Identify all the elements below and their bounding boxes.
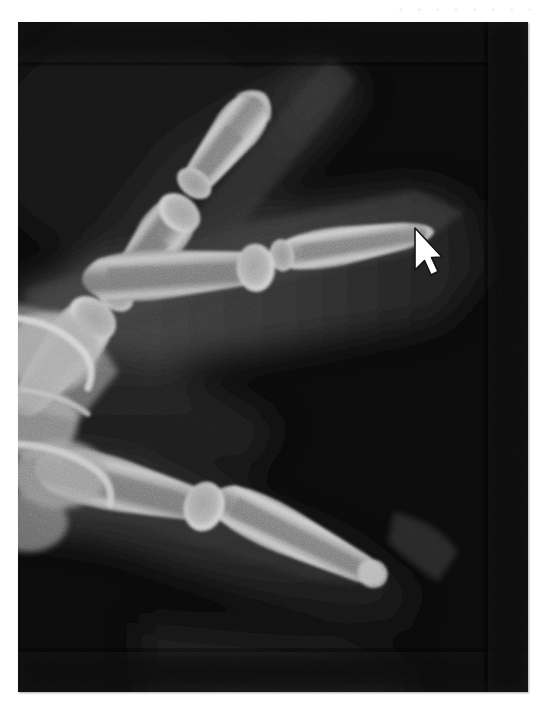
page-watermark: · · · · · · · · bbox=[0, 0, 551, 20]
page-root: · · · · · · · · bbox=[0, 0, 551, 706]
xray-image bbox=[18, 22, 528, 692]
xray-image-frame[interactable] bbox=[18, 22, 528, 692]
